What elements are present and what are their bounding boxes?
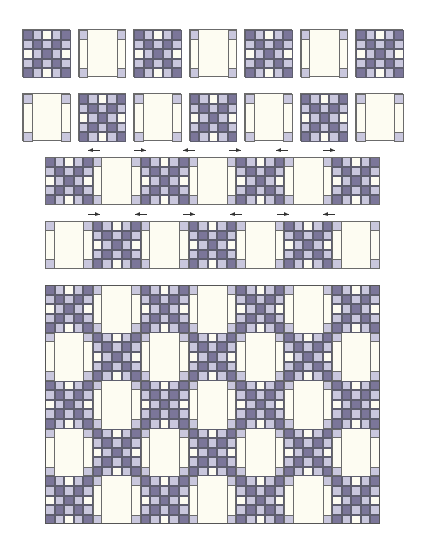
patch-square [370,486,380,496]
patch-square [264,40,274,50]
patch-square [342,486,352,496]
patch-square [45,400,55,410]
patch-square [64,409,74,419]
corner-square [332,467,342,477]
patch-square [93,457,103,467]
nine-patch-block [332,381,380,429]
patch-square [370,496,380,506]
patch-square [265,515,275,525]
patch-square [33,30,43,40]
patch-square [228,104,238,114]
patch-square [102,438,112,448]
patch-square [370,409,380,419]
patch-square [141,400,151,410]
patch-square [45,314,55,324]
patch-square [256,381,266,391]
patch-square [169,304,179,314]
patch-square [370,515,380,525]
patch-square [208,362,218,372]
patch-square [265,295,275,305]
patch-square [256,419,266,429]
patch-square [198,371,208,381]
plain-block [244,93,292,141]
patch-square [179,295,189,305]
patch-square [218,94,228,104]
patch-square [310,123,320,133]
patch-square [93,429,103,439]
patch-square [294,362,304,372]
patch-square [98,94,108,104]
patch-square [255,49,265,59]
corner-square [45,467,55,477]
patch-square [45,381,55,391]
patch-square [23,68,33,78]
patch-square [236,409,246,419]
corner-square [93,419,103,429]
patch-square [313,438,323,448]
patch-square [102,333,112,343]
plain-block [45,429,93,477]
patch-square [313,429,323,439]
plain-block [332,429,380,477]
patch-square [283,68,293,78]
patch-square [236,486,246,496]
patch-square [339,94,349,104]
patch-square [141,515,151,525]
patch-square [122,342,132,352]
patch-square [342,285,352,295]
patch-square [217,448,227,458]
patch-square [366,49,376,59]
patch-square [366,30,376,40]
patch-square [236,515,246,525]
patch-square [209,123,219,133]
patch-square [332,409,342,419]
patch-square [64,515,74,525]
patch-square [320,123,330,133]
patch-square [198,438,208,448]
nine-patch-block [133,29,181,77]
corner-square [356,132,366,142]
patch-square [217,352,227,362]
arrow-right-icon [322,147,336,153]
patch-square [275,496,285,506]
patch-square [55,505,65,515]
corner-square [275,371,285,381]
patch-square [150,295,160,305]
patch-square [209,104,219,114]
patch-square [275,409,285,419]
patch-square [74,323,84,333]
patch-square [256,314,266,324]
patch-square [169,323,179,333]
patch-square [339,123,349,133]
patch-square [217,467,227,477]
patch-square [45,419,55,429]
plain-block [236,429,284,477]
nine-patch-block [141,285,189,333]
patch-square [45,496,55,506]
patch-square [310,132,320,142]
patch-square [160,285,170,295]
patch-square [33,49,43,59]
patch-square [320,104,330,114]
patch-square [64,390,74,400]
patch-square [144,40,154,50]
plain-block [236,333,284,381]
corner-square [189,419,199,429]
patch-square [179,409,189,419]
arrow-left-icon [229,211,243,217]
patch-square [208,438,218,448]
corner-square [332,371,342,381]
plain-block [300,29,348,77]
patch-square [265,505,275,515]
patch-square [323,429,333,439]
patch-square [141,323,151,333]
patch-square [23,40,33,50]
patch-square [313,352,323,362]
patch-square [172,59,182,69]
corner-square [332,333,342,343]
patch-square [323,352,333,362]
patch-square [55,486,65,496]
patch-square [356,40,366,50]
patch-square [74,381,84,391]
patch-square [255,68,265,78]
